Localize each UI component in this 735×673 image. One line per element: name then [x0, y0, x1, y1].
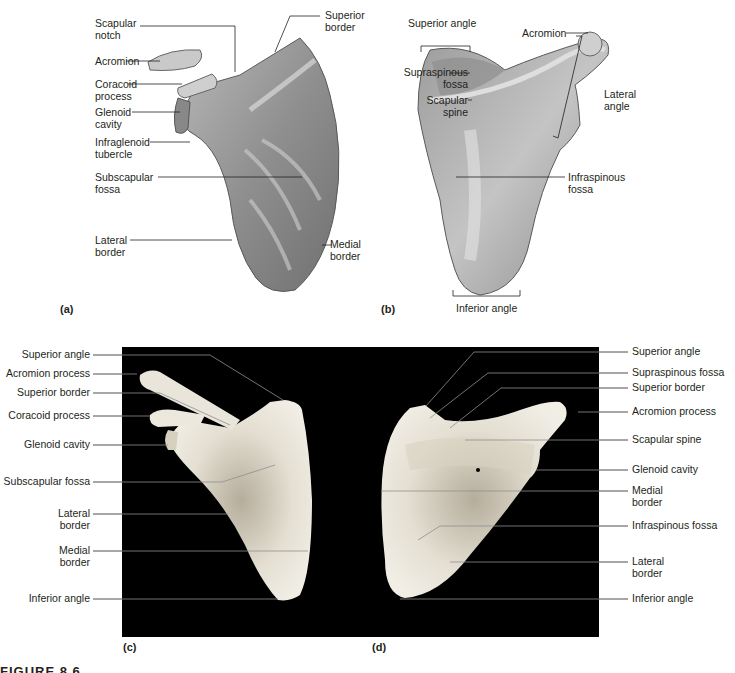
label-d-supraspinous-fossa: Supraspinous fossa: [632, 367, 724, 379]
label-c-medial-border: Medial border: [0, 545, 90, 568]
scapula-anterior-photo: [140, 371, 312, 601]
label-c-acromion-process: Acromion process: [0, 368, 90, 380]
label-c-subscapular-fossa: Subscapular fossa: [0, 476, 90, 488]
label-d-superior-border: Superior border: [632, 382, 705, 394]
label-d-scapular-spine: Scapular spine: [632, 434, 701, 446]
label-d-medial-border: Medial border: [632, 485, 663, 508]
label-d-superior-angle: Superior angle: [632, 346, 700, 358]
label-d-lateral-border: Lateral border: [632, 556, 664, 579]
panel-tag-d: (d): [372, 641, 386, 653]
label-c-coracoid-process: Coracoid process: [0, 410, 90, 422]
panel-tag-c: (c): [123, 641, 136, 653]
label-d-glenoid-cavity: Glenoid cavity: [632, 464, 698, 476]
label-c-superior-border: Superior border: [0, 387, 90, 399]
panel-cd-photographs: [0, 0, 735, 673]
scapula-posterior-photo: [381, 402, 566, 598]
panel-c-leader-lines-outer: [93, 355, 122, 599]
label-d-inferior-angle: Inferior angle: [632, 593, 693, 605]
label-c-inferior-angle: Inferior angle: [0, 593, 90, 605]
figure-caption: FIGURE 8.6: [0, 664, 81, 673]
panel-d-leader-lines-outer: [599, 352, 628, 599]
label-d-infraspinous-fossa: Infraspinous fossa: [632, 520, 717, 532]
label-c-glenoid-cavity: Glenoid cavity: [0, 439, 90, 451]
label-c-lateral-border: Lateral border: [0, 508, 90, 531]
label-c-superior-angle: Superior angle: [0, 349, 90, 361]
label-d-acromion-process: Acromion process: [632, 406, 716, 418]
